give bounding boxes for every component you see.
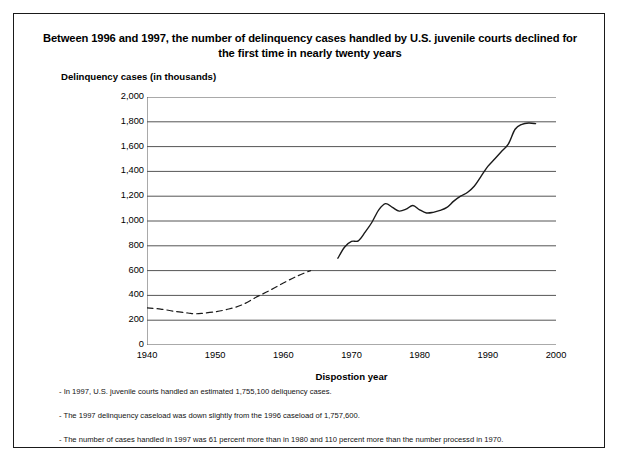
y-tick-label: 2,000 <box>121 92 144 101</box>
x-tick-label: 1950 <box>205 351 226 360</box>
data-series-line-0 <box>147 271 311 314</box>
x-tick-label: 1940 <box>137 351 158 360</box>
y-tick-label: 200 <box>128 316 144 325</box>
footnote-line: - The 1997 delinquency caseload was down… <box>59 412 589 420</box>
y-tick-label: 1,000 <box>121 216 144 225</box>
y-tick-label: 1,400 <box>121 167 144 176</box>
figure-frame: Between 1996 and 1997, the number of del… <box>13 13 605 448</box>
x-tick-label: 1960 <box>273 351 294 360</box>
y-axis-title: Delinquency cases (in thousands) <box>61 71 216 82</box>
x-axis-title: Dispostion year <box>147 371 556 382</box>
y-tick-label: 1,800 <box>121 117 144 126</box>
footnote-line: - In 1997, U.S. juvenile courts handled … <box>59 388 589 396</box>
footnote-list: - In 1997, U.S. juvenile courts handled … <box>59 388 589 460</box>
x-axis-tick-labels: 1940195019601970198019902000 <box>147 351 556 363</box>
y-tick-label: 800 <box>128 241 144 250</box>
y-tick-label: 600 <box>128 266 144 275</box>
x-tick-label: 1980 <box>409 351 430 360</box>
y-tick-label: 1,200 <box>121 192 144 201</box>
y-axis-tick-labels: 02004006008001,0001,2001,4001,6001,8002,… <box>102 97 144 345</box>
x-tick-label: 1970 <box>341 351 362 360</box>
data-series-line-1 <box>338 123 536 258</box>
footnote-line: - The number of cases handled in 1997 wa… <box>59 436 589 444</box>
y-tick-label: 0 <box>139 340 144 349</box>
y-tick-label: 400 <box>128 291 144 300</box>
y-tick-label: 1,600 <box>121 142 144 151</box>
line-chart-svg <box>147 97 556 345</box>
chart-title: Between 1996 and 1997, the number of del… <box>38 31 582 61</box>
x-tick-label: 1990 <box>477 351 498 360</box>
plot-area <box>147 97 556 345</box>
x-tick-label: 2000 <box>546 351 567 360</box>
